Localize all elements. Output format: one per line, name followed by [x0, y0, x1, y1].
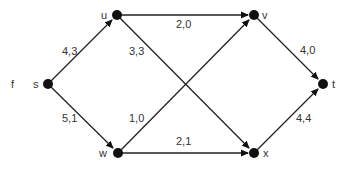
node-x	[249, 148, 259, 158]
node-label-w: w	[98, 147, 107, 159]
edge-label-u-v: 2,0	[176, 18, 191, 30]
node-t	[318, 79, 328, 89]
node-label-x: x	[263, 147, 269, 159]
edge-label-w-v: 1,0	[129, 112, 144, 124]
node-s	[43, 79, 53, 89]
side-label-f: f	[11, 78, 15, 90]
edge-u-x	[117, 15, 249, 148]
node-label-s: s	[33, 78, 39, 90]
edge-s-u	[48, 20, 112, 84]
node-label-v: v	[262, 9, 268, 21]
node-label-u: u	[101, 9, 107, 21]
edge-label-w-x: 2,1	[176, 135, 191, 147]
node-label-t: t	[332, 78, 335, 90]
node-v	[249, 10, 259, 20]
edge-label-u-x: 3,3	[129, 45, 144, 57]
edge-label-s-w: 5,1	[62, 112, 77, 124]
edge-label-s-u: 4,3	[62, 45, 77, 57]
edge-s-w	[48, 84, 113, 148]
flow-network-diagram: f s u v w x t 4,3 5,1 2,0 3,3 1,0 2,1 4,…	[0, 0, 348, 169]
edge-label-v-t: 4,0	[300, 44, 315, 56]
node-u	[112, 10, 122, 20]
edge-w-v	[118, 20, 249, 153]
edge-label-x-t: 4,4	[296, 112, 311, 124]
node-w	[113, 148, 123, 158]
